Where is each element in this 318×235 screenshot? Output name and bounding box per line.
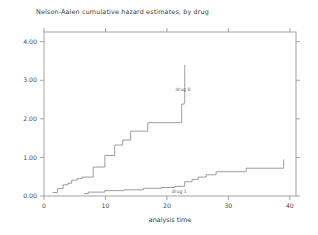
- x-axis-tick-labels: 010203040: [42, 202, 294, 209]
- y-axis-tick-labels: 0.001.002.003.004.00: [23, 38, 37, 199]
- x-axis-ticks-top: [44, 28, 290, 32]
- y-tick-label: 0.00: [23, 192, 37, 199]
- y-tick-label: 2.00: [23, 115, 37, 122]
- y-axis-ticks-right: [296, 42, 300, 196]
- y-tick-label: 3.00: [23, 76, 37, 83]
- series-label-drug-0: drug 0: [175, 87, 190, 92]
- x-tick-label: 20: [163, 202, 171, 209]
- series-line-drug-0: [53, 65, 185, 193]
- y-tick-label: 4.00: [23, 38, 37, 45]
- x-tick-label: 30: [224, 202, 232, 209]
- y-axis-ticks: [40, 42, 44, 196]
- x-tick-label: 0: [42, 202, 46, 209]
- series-label-drug-1: drug 1: [172, 189, 187, 194]
- x-axis-title: analysis time: [149, 216, 191, 224]
- chart-screenshot: Nelson-Aalen cumulative hazard estimates…: [0, 0, 318, 235]
- x-axis-ticks: [44, 196, 290, 200]
- x-tick-label: 10: [102, 202, 110, 209]
- nelson-aalen-plot: 0.001.002.003.004.00 010203040 drug 0 dr…: [0, 0, 318, 235]
- x-tick-label: 40: [286, 202, 294, 209]
- y-tick-label: 1.00: [23, 154, 37, 161]
- plot-frame: [44, 32, 296, 196]
